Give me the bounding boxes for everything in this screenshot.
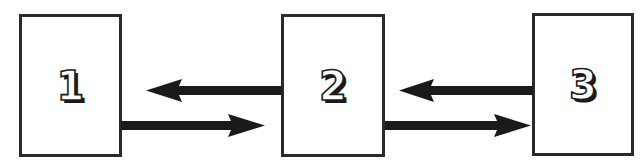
node-label-1: 1 [57,66,85,106]
flow-diagram: 1 2 3 [0,0,644,166]
arrow-3-to-2 [399,79,533,102]
arrow-1-to-2 [121,114,265,137]
node-label-2: 2 [319,66,347,106]
node-box-3: 3 [532,13,634,156]
node-box-2: 2 [281,14,385,157]
arrow-2-to-3 [385,114,531,137]
node-box-1: 1 [19,14,122,157]
node-label-3: 3 [569,65,597,105]
arrow-2-to-1 [146,79,282,102]
